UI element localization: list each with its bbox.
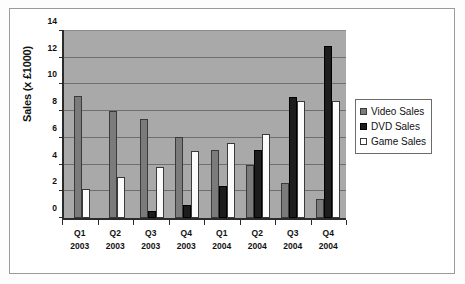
bar-game — [117, 177, 125, 218]
x-axis-labels: Q12003Q22003Q32003Q42003Q12004Q22004Q320… — [62, 227, 346, 253]
plot-wrapper: 02468101214 — [62, 31, 346, 220]
x-axis-tick — [62, 220, 63, 225]
x-axis-label-year: 2003 — [133, 240, 169, 253]
y-axis-tick-label: 8 — [52, 96, 57, 106]
y-axis-tick-label: 4 — [52, 150, 57, 160]
y-axis-tick-label: 14 — [48, 16, 57, 26]
x-axis-label: Q22004 — [240, 227, 276, 253]
x-axis-label: Q32003 — [133, 227, 169, 253]
bar-dvd — [324, 46, 332, 218]
bar-game — [191, 151, 199, 218]
chart-figure: Sales (x £1000) 02468101214 Q12003Q22003… — [0, 0, 465, 284]
legend-label: DVD Sales — [371, 121, 420, 132]
bar-group — [99, 31, 134, 218]
bar-video — [140, 119, 148, 218]
x-axis-label-quarter: Q1 — [204, 227, 240, 240]
bar-dvd — [219, 186, 227, 218]
x-axis-label-quarter: Q2 — [98, 227, 134, 240]
bar-video — [281, 183, 289, 218]
x-axis-label: Q22003 — [98, 227, 134, 253]
x-axis-ticks — [62, 220, 346, 225]
x-axis-label: Q42003 — [169, 227, 205, 253]
chart-legend: Video SalesDVD SalesGame Sales — [355, 99, 432, 154]
bar-group — [276, 31, 311, 218]
y-axis-tick-label: 10 — [48, 69, 57, 79]
x-axis-tick — [311, 220, 312, 225]
x-axis-label: Q32004 — [275, 227, 311, 253]
x-axis-label-year: 2003 — [169, 240, 205, 253]
bar-game — [297, 101, 305, 218]
bar-video — [246, 165, 254, 218]
bar-game — [82, 189, 90, 218]
bar-video — [74, 96, 82, 218]
bar-group — [240, 31, 275, 218]
x-axis-tick — [240, 220, 241, 225]
legend-item[interactable]: Video Sales — [360, 104, 426, 119]
plot-area: 02468101214 — [62, 31, 346, 220]
x-axis-label: Q42004 — [311, 227, 347, 253]
x-axis-label-year: 2003 — [98, 240, 134, 253]
y-axis-tick-label: 6 — [52, 123, 57, 133]
x-axis-tick — [275, 220, 276, 225]
x-axis-label-quarter: Q2 — [240, 227, 276, 240]
bar-video — [316, 199, 324, 218]
x-axis-label: Q12003 — [62, 227, 98, 253]
legend-swatch-dvd — [360, 123, 367, 130]
bar-video — [211, 150, 219, 218]
bar-group — [64, 31, 99, 218]
x-axis-label-quarter: Q4 — [169, 227, 205, 240]
legend-item[interactable]: DVD Sales — [360, 119, 426, 134]
x-axis-tick — [346, 220, 347, 225]
y-axis-tick-label: 12 — [48, 43, 57, 53]
x-axis-tick — [169, 220, 170, 225]
x-axis-label-year: 2004 — [204, 240, 240, 253]
bar-game — [332, 101, 340, 218]
bar-video — [109, 111, 117, 218]
legend-item[interactable]: Game Sales — [360, 134, 426, 149]
legend-swatch-game — [360, 138, 367, 145]
bar-group — [170, 31, 205, 218]
x-axis-label-year: 2004 — [275, 240, 311, 253]
bar-group — [311, 31, 346, 218]
bar-group — [135, 31, 170, 218]
x-axis-tick — [98, 220, 99, 225]
x-axis-label-year: 2004 — [240, 240, 276, 253]
x-axis-label-quarter: Q4 — [311, 227, 347, 240]
legend-label: Video Sales — [371, 106, 424, 117]
x-axis-tick — [133, 220, 134, 225]
y-axis-tick-label: 0 — [52, 203, 57, 213]
bar-dvd — [254, 150, 262, 218]
bar-game — [227, 143, 235, 218]
legend-swatch-video — [360, 108, 367, 115]
x-axis-label-year: 2003 — [62, 240, 98, 253]
legend-label: Game Sales — [371, 136, 426, 147]
bar-game — [262, 134, 270, 218]
y-axis-tick-label: 2 — [52, 176, 57, 186]
bar-dvd — [183, 205, 191, 218]
y-axis-title: Sales (x £1000) — [21, 19, 33, 149]
bar-video — [175, 137, 183, 218]
x-axis-label-year: 2004 — [311, 240, 347, 253]
x-axis-tick — [204, 220, 205, 225]
bar-dvd — [289, 97, 297, 218]
x-axis-label-quarter: Q1 — [62, 227, 98, 240]
bar-group — [205, 31, 240, 218]
x-axis-label: Q12004 — [204, 227, 240, 253]
bar-dvd — [148, 211, 156, 218]
bar-game — [156, 167, 164, 218]
x-axis-label-quarter: Q3 — [133, 227, 169, 240]
bar-series-container — [64, 31, 346, 218]
x-axis-label-quarter: Q3 — [275, 227, 311, 240]
